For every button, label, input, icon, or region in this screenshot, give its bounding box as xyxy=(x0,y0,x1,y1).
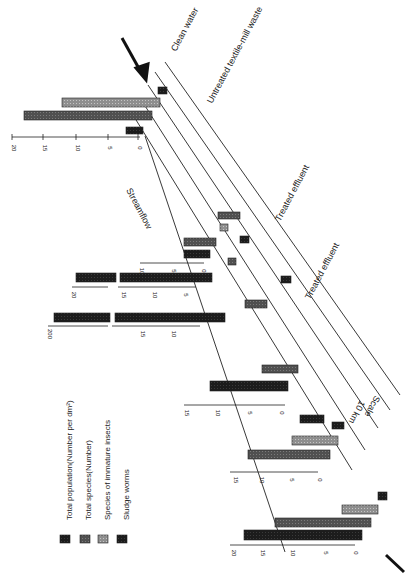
label-treated-2: Treated effluent xyxy=(303,241,341,301)
svg-text:0: 0 xyxy=(137,146,143,150)
svg-text:10: 10 xyxy=(215,410,221,417)
svg-text:0: 0 xyxy=(279,411,285,415)
svg-text:15: 15 xyxy=(42,145,48,152)
bar-s1-immature-insects xyxy=(62,98,160,107)
label-streamflow: Streamflow xyxy=(124,186,154,231)
label-clean-water: Clean water xyxy=(169,6,200,53)
legend-sludge-worms: Sludge worms xyxy=(122,469,131,520)
station-6: 20 15 10 5 0 xyxy=(230,492,387,557)
svg-text:0: 0 xyxy=(353,551,359,555)
svg-text:5: 5 xyxy=(323,551,329,555)
label-treated-1: Treated effluent xyxy=(273,163,311,223)
station-3 xyxy=(218,212,249,265)
svg-text:10: 10 xyxy=(171,331,177,338)
svg-text:20: 20 xyxy=(231,550,237,557)
svg-text:200: 200 xyxy=(47,329,53,340)
svg-text:5: 5 xyxy=(107,146,113,150)
bar-s1-sludge-worms xyxy=(158,87,167,94)
svg-text:20: 20 xyxy=(11,145,17,152)
svg-text:5: 5 xyxy=(289,478,295,482)
svg-text:10: 10 xyxy=(75,145,81,152)
svg-text:20: 20 xyxy=(71,292,77,299)
station-4: 15 10 5 0 xyxy=(184,276,298,417)
bar-s2-total-population-a xyxy=(54,313,110,322)
bar-s2-total-species-a xyxy=(76,273,116,282)
svg-text:10: 10 xyxy=(259,477,265,484)
svg-text:10: 10 xyxy=(152,292,158,299)
bar-s2-total-population-b xyxy=(115,313,225,322)
station-1: 20 15 10 5 0 xyxy=(11,87,167,152)
svg-text:5: 5 xyxy=(247,411,253,415)
legend-immature-insects: Species of immature insects xyxy=(103,420,112,520)
bar-s2-sludge-worms xyxy=(184,238,216,246)
legend-total-population: Total population(Number per dm²) xyxy=(65,400,74,520)
legend: Total population(Number per dm²) Total s… xyxy=(60,400,131,543)
bar-s1-total-population xyxy=(126,127,143,134)
bar-s1-total-species xyxy=(24,111,152,120)
svg-text:0: 0 xyxy=(317,478,323,482)
station-5: 15 10 5 0 xyxy=(230,415,344,484)
bar-s2-immature-insects xyxy=(184,250,210,258)
svg-text:10: 10 xyxy=(290,550,296,557)
svg-text:15: 15 xyxy=(233,477,239,484)
stream-survey-chart: 20 15 10 5 0 200 15 10 20 15 10 5 10 xyxy=(0,0,418,574)
svg-text:15: 15 xyxy=(140,331,146,338)
svg-text:15: 15 xyxy=(260,550,266,557)
svg-text:15: 15 xyxy=(184,410,190,417)
label-untreated: Untreated textile-mill waste xyxy=(205,5,265,105)
legend-total-species: Total species(Number) xyxy=(84,440,93,520)
axis-station-1 xyxy=(12,134,140,140)
svg-text:15: 15 xyxy=(121,292,127,299)
station-2: 200 15 10 20 15 10 5 10 5 0 xyxy=(47,238,225,340)
bar-s2-total-species-b xyxy=(120,273,212,282)
svg-text:5: 5 xyxy=(183,293,189,297)
